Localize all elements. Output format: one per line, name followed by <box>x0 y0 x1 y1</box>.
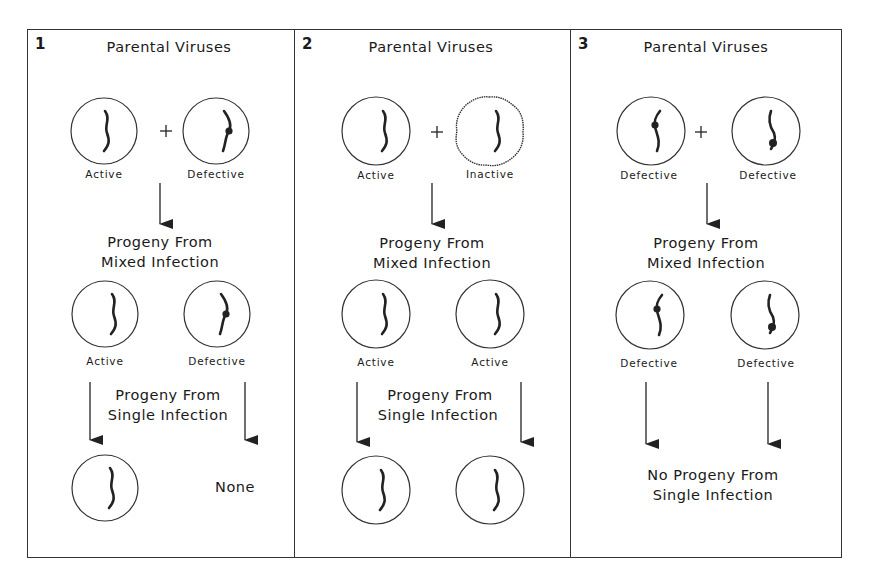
virus-label: Defective <box>723 169 813 181</box>
single-infection-title: Single Infection <box>93 405 243 425</box>
virus-label: Active <box>336 356 416 368</box>
no-progeny-result: Single Infection <box>628 485 798 505</box>
single-infection-title: Progeny From <box>365 385 515 405</box>
panel-2: 2 <box>294 29 570 558</box>
single-infection-title: Single Infection <box>363 405 513 425</box>
parental-title: Parental Viruses <box>631 37 781 57</box>
virus-label: Active <box>64 168 144 180</box>
virus-label: Active <box>336 169 416 181</box>
mixed-infection-title: Progeny From <box>631 233 781 253</box>
mixed-infection-title: Progeny From <box>85 232 235 252</box>
panel-number: 2 <box>302 35 312 53</box>
parental-title: Parental Viruses <box>94 37 244 57</box>
mixed-infection-title: Mixed Infection <box>357 253 507 273</box>
no-progeny-result: No Progeny From <box>628 465 798 485</box>
virus-label: Inactive <box>450 168 530 180</box>
panel-number: 1 <box>35 35 45 53</box>
virus-label: Active <box>65 355 145 367</box>
single-infection-title: Progeny From <box>93 385 243 405</box>
mixed-infection-title: Mixed Infection <box>85 252 235 272</box>
virus-label: Defective <box>604 357 694 369</box>
virus-label: Defective <box>177 355 257 367</box>
mixed-infection-title: Progeny From <box>357 233 507 253</box>
virus-label: Active <box>450 356 530 368</box>
panel-number: 3 <box>578 35 588 53</box>
virus-label: Defective <box>721 357 811 369</box>
no-progeny-result: None <box>200 477 270 497</box>
virus-label: Defective <box>604 169 694 181</box>
parental-title: Parental Viruses <box>356 37 506 57</box>
virus-label: Defective <box>176 168 256 180</box>
mixed-infection-title: Mixed Infection <box>631 253 781 273</box>
